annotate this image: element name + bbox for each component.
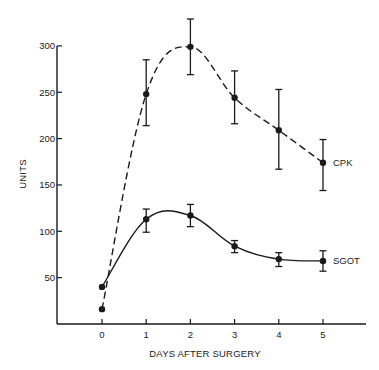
data-point bbox=[320, 160, 326, 166]
data-point bbox=[276, 256, 282, 262]
x-tick-label: 1 bbox=[144, 329, 149, 340]
data-point bbox=[276, 127, 282, 133]
x-axis-title: DAYS AFTER SURGERY bbox=[149, 348, 261, 359]
x-tick-label: 3 bbox=[232, 329, 237, 340]
data-point bbox=[143, 91, 149, 97]
x-axis: 012345 bbox=[57, 319, 366, 340]
data-point bbox=[99, 284, 105, 290]
data-point bbox=[187, 212, 193, 218]
y-tick-label: 250 bbox=[39, 87, 55, 98]
series-layer: CPKSGOT bbox=[99, 19, 360, 312]
y-tick-label: 300 bbox=[39, 40, 55, 51]
series-sgot: SGOT bbox=[99, 204, 360, 290]
data-point bbox=[143, 216, 149, 222]
data-point bbox=[99, 306, 105, 312]
y-tick-label: 150 bbox=[39, 179, 55, 190]
data-point bbox=[231, 243, 237, 249]
series-label-sgot: SGOT bbox=[333, 255, 360, 266]
y-axis-title: UNITS bbox=[17, 159, 28, 189]
x-tick-label: 4 bbox=[276, 329, 281, 340]
x-tick-label: 5 bbox=[320, 329, 325, 340]
y-tick-label: 200 bbox=[39, 133, 55, 144]
x-tick-label: 2 bbox=[188, 329, 193, 340]
data-point bbox=[187, 44, 193, 50]
data-point bbox=[231, 95, 237, 101]
series-cpk: CPK bbox=[99, 19, 353, 312]
data-point bbox=[320, 258, 326, 264]
series-label-cpk: CPK bbox=[333, 157, 353, 168]
y-tick-label: 100 bbox=[39, 226, 55, 237]
y-axis: 50100150200250300 bbox=[39, 40, 62, 324]
cpk-line bbox=[102, 47, 323, 309]
line-chart: 50100150200250300 012345 CPKSGOT UNITS D… bbox=[0, 0, 379, 370]
y-tick-label: 50 bbox=[44, 272, 55, 283]
sgot-line bbox=[102, 211, 323, 287]
x-tick-label: 0 bbox=[99, 329, 104, 340]
